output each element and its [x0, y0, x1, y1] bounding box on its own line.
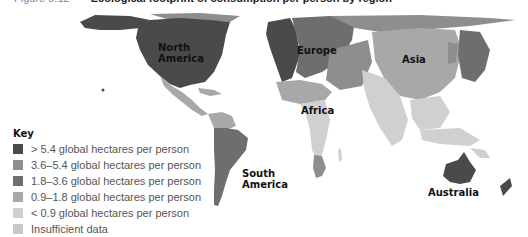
key-label: 3.6–5.4 global hectares per person: [31, 159, 201, 171]
key-label: 1.8–3.6 global hectares per person: [31, 175, 201, 187]
key-item: > 5.4 global hectares per person: [13, 141, 201, 157]
region-png: [470, 148, 490, 158]
label-north-america: North America: [158, 42, 204, 64]
key-item: < 0.9 global hectares per person: [13, 205, 201, 221]
swatch-icon: [13, 208, 23, 218]
label-south-america: South America: [242, 168, 288, 190]
key-item: 0.9–1.8 global hectares per person: [13, 189, 201, 205]
region-australia: [443, 152, 476, 184]
swatch-icon: [13, 224, 23, 234]
region-south-america-north: [208, 112, 236, 130]
region-hawaii: [102, 89, 105, 92]
region-se-asia: [410, 96, 450, 130]
region-indonesia: [420, 128, 480, 146]
key-title: Key: [13, 128, 201, 139]
region-south-america: [214, 128, 248, 206]
key-label: < 0.9 global hectares per person: [31, 207, 189, 219]
key-label: Insufficient data: [31, 223, 108, 235]
label-africa: Africa: [301, 105, 334, 116]
map-key: Key > 5.4 global hectares per person 3.6…: [13, 128, 201, 237]
region-caribbean: [198, 88, 222, 96]
swatch-icon: [13, 192, 23, 202]
region-japan: [458, 30, 490, 82]
swatch-icon: [13, 160, 23, 170]
label-europe: Europe: [297, 45, 337, 56]
swatch-icon: [13, 176, 23, 186]
key-label: 0.9–1.8 global hectares per person: [31, 191, 201, 203]
region-south-africa: [313, 155, 326, 178]
swatch-icon: [13, 144, 23, 154]
key-item: 1.8–3.6 global hectares per person: [13, 173, 201, 189]
region-madagascar: [338, 148, 342, 162]
label-asia: Asia: [402, 54, 426, 65]
region-new-zealand: [500, 178, 512, 196]
key-label: > 5.4 global hectares per person: [31, 143, 189, 155]
label-australia: Australia: [428, 187, 479, 198]
key-item: Insufficient data: [13, 221, 201, 237]
key-item: 3.6–5.4 global hectares per person: [13, 157, 201, 173]
